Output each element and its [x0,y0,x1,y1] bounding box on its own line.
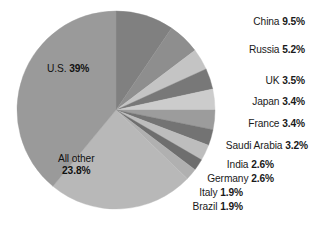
pie-label-italy: Italy 1.9% [199,187,243,198]
pie-label-russia: Russia 5.2% [249,44,305,55]
pie-label-value: 1.9% [220,201,243,212]
pie-chart: U.S. 39%All other23.8% China 9.5%Russia … [0,0,316,232]
pie-label-name: Italy [199,187,220,198]
pie-chart-canvas [0,0,316,232]
pie-label-name: Saudi Arabia [226,140,285,151]
pie-label-value: 3.4% [282,96,305,107]
pie-label-value: 2.6% [251,159,274,170]
pie-label-value: 3.5% [282,75,305,86]
pie-label-china: China 9.5% [253,16,305,27]
pie-label-uk: UK 3.5% [265,75,305,86]
pie-label-value: 23.8% [58,165,94,177]
pie-label-value: 2.6% [251,173,274,184]
pie-label-name: India [227,159,251,170]
pie-label-name: Brazil [193,201,221,212]
pie-label-us: U.S. 39% [47,63,89,75]
pie-label-name: Japan [252,96,282,107]
pie-label-name: France [248,118,282,129]
pie-label-brazil: Brazil 1.9% [193,201,243,212]
pie-slice-group [17,11,215,209]
pie-label-allother: All other23.8% [58,153,94,177]
pie-label-france: France 3.4% [248,118,305,129]
pie-label-value: 3.2% [285,140,308,151]
pie-label-value: 9.5% [282,16,305,27]
pie-label-name: China [253,16,282,27]
pie-label-india: India 2.6% [227,159,274,170]
pie-label-value: 5.2% [282,44,305,55]
pie-label-name: U.S. [47,63,69,74]
pie-label-value: 3.4% [282,118,305,129]
pie-label-name: UK [265,75,282,86]
pie-label-name: Russia [249,44,282,55]
pie-label-saudi: Saudi Arabia 3.2% [226,140,308,151]
pie-label-japan: Japan 3.4% [252,96,305,107]
pie-label-name: Germany [207,173,251,184]
pie-label-germany: Germany 2.6% [207,173,274,184]
pie-label-name: All other [58,153,94,165]
pie-label-value: 1.9% [220,187,243,198]
pie-label-value: 39% [69,63,89,74]
